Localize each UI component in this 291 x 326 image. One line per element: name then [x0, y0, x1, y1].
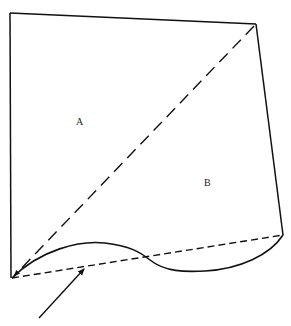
pointer-arrow: [39, 269, 84, 318]
region-b-label: B: [204, 177, 211, 188]
right-edge: [256, 24, 283, 235]
left-edge: [10, 13, 11, 278]
region-a-label: A: [76, 116, 84, 127]
diagonal-dashed-line: [14, 26, 254, 276]
top-edge: [10, 13, 256, 24]
chord-dashed-line: [12, 235, 283, 278]
diagram-canvas: A B: [0, 0, 291, 326]
